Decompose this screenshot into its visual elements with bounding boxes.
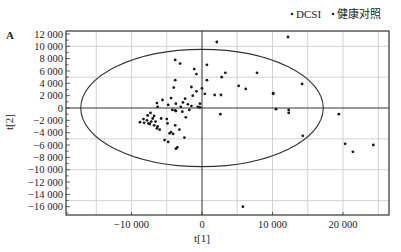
data-point-dcsi (372, 144, 375, 147)
y-tick-label: −10 000 (28, 164, 63, 175)
data-point-dcsi (287, 36, 290, 39)
data-point-healthy-control (188, 109, 191, 112)
data-point-healthy-control (167, 104, 170, 107)
legend-label-healthy-control: 健康对照 (337, 7, 381, 20)
legend-label-dcsi: DCSI (296, 8, 321, 20)
data-point-healthy-control (153, 115, 156, 118)
data-point-dcsi (215, 41, 218, 44)
y-tick-label: 6 000 (39, 66, 63, 77)
grid-lines (66, 31, 389, 215)
data-point-healthy-control (183, 136, 186, 139)
data-point-healthy-control (193, 68, 196, 71)
data-point-healthy-control (174, 109, 177, 112)
y-tick-label: 8 000 (39, 53, 63, 64)
data-point-healthy-control (181, 110, 184, 113)
data-point-healthy-control (199, 102, 202, 105)
data-point-healthy-control (184, 116, 187, 119)
data-point-healthy-control (174, 79, 177, 82)
data-point-dcsi (272, 92, 275, 95)
y-tick-label: −2 000 (33, 115, 63, 126)
data-point-healthy-control (190, 105, 193, 108)
x-tick-label: 0 (199, 219, 204, 230)
data-point-healthy-control (156, 102, 159, 105)
panel-label: A (6, 29, 14, 41)
data-point-healthy-control (160, 117, 163, 120)
data-point-healthy-control (161, 99, 164, 102)
data-point-dcsi (242, 205, 245, 208)
data-point-dcsi (337, 113, 340, 116)
data-point-dcsi (219, 113, 222, 116)
data-point-dcsi (213, 94, 216, 97)
data-point-dcsi (344, 142, 347, 145)
data-point-dcsi (220, 76, 223, 79)
data-point-healthy-control (151, 117, 154, 120)
data-point-healthy-control (146, 114, 149, 117)
zero-lines (66, 31, 389, 215)
data-point-dcsi (301, 134, 304, 137)
data-point-healthy-control (175, 102, 178, 105)
x-axis-label: t[1] (194, 232, 210, 244)
data-point-healthy-control (191, 94, 194, 97)
scatter-chart: 12 00010 0008 0006 0004 0002 0000−2 000−… (0, 0, 401, 252)
data-point-dcsi (287, 112, 290, 115)
data-point-dcsi (206, 63, 209, 66)
data-point-dcsi (275, 108, 278, 111)
legend-marker-dcsi (291, 13, 294, 16)
y-tick-label: 0 (58, 103, 63, 114)
data-point-dcsi (203, 92, 206, 95)
data-point-healthy-control (171, 109, 174, 112)
data-point-healthy-control (182, 101, 185, 104)
x-tick-label: 20 000 (329, 219, 358, 230)
data-point-healthy-control (195, 90, 198, 93)
y-axis-label: t[2] (3, 114, 15, 130)
plot-frame (66, 31, 389, 215)
data-point-healthy-control (176, 146, 179, 149)
data-point-dcsi (237, 84, 240, 87)
data-point-healthy-control (142, 118, 145, 121)
data-point-healthy-control (163, 139, 166, 142)
data-point-healthy-control (190, 86, 193, 89)
data-point-healthy-control (166, 122, 169, 125)
y-tick-label: 2 000 (39, 90, 63, 101)
data-point-healthy-control (172, 86, 175, 89)
data-point-healthy-control (147, 122, 150, 125)
data-point-healthy-control (149, 112, 152, 115)
y-tick-label: −16 000 (28, 201, 63, 212)
y-tick-label: −12 000 (28, 177, 63, 188)
data-point-healthy-control (154, 120, 157, 123)
data-point-dcsi (244, 88, 247, 91)
y-tick-label: 4 000 (39, 78, 63, 89)
data-point-healthy-control (167, 141, 170, 144)
data-points (139, 36, 375, 209)
data-point-healthy-control (156, 127, 159, 130)
data-point-dcsi (224, 71, 227, 74)
data-point-healthy-control (139, 121, 142, 124)
data-point-dcsi (206, 79, 209, 82)
legend-marker-healthy-control (332, 13, 335, 16)
data-point-healthy-control (153, 124, 156, 127)
data-point-healthy-control (179, 105, 182, 108)
data-point-healthy-control (187, 103, 190, 106)
x-tick-label: 10 000 (258, 219, 287, 230)
data-point-healthy-control (178, 128, 181, 131)
data-point-healthy-control (146, 119, 149, 122)
data-point-dcsi (256, 71, 259, 74)
data-point-healthy-control (174, 124, 177, 127)
data-point-healthy-control (179, 62, 182, 65)
data-point-dcsi (201, 87, 204, 90)
data-point-dcsi (220, 94, 223, 97)
data-point-healthy-control (150, 120, 153, 123)
data-point-healthy-control (170, 131, 173, 134)
data-point-healthy-control (184, 97, 187, 100)
data-point-dcsi (352, 150, 355, 153)
data-point-healthy-control (156, 105, 159, 108)
data-point-dcsi (287, 109, 290, 112)
data-point-healthy-control (143, 121, 146, 124)
y-tick-label: −4 000 (33, 127, 63, 138)
x-tick-label: −10 000 (114, 219, 149, 230)
y-tick-label: −14 000 (28, 189, 63, 200)
y-tick-label: 12 000 (34, 29, 63, 40)
y-tick-label: 10 000 (34, 41, 63, 52)
data-point-healthy-control (165, 118, 168, 121)
y-tick-label: −8 000 (33, 152, 63, 163)
